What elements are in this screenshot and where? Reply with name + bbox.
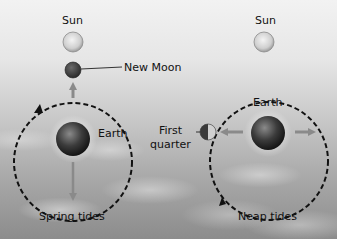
tides-diagram: Sun New Moon Earth Spring tides Sun Eart… (0, 0, 337, 239)
first-quarter-label-line1: First (159, 125, 182, 136)
earth-icon (56, 122, 90, 156)
orbit-arrow-icon (219, 197, 226, 206)
spring-tides-caption: Spring tides (39, 211, 105, 222)
neap-tides-panel (196, 32, 328, 220)
arrow-left-icon (220, 128, 228, 136)
left-earth-label: Earth (98, 128, 128, 139)
right-earth-label: Earth (253, 97, 283, 108)
earth-icon (251, 116, 285, 150)
neap-tides-caption: Neap tides (238, 211, 297, 222)
first-quarter-label-line2: quarter (150, 139, 191, 150)
left-sun-label: Sun (62, 15, 83, 26)
orbit-arrow-icon (34, 104, 43, 113)
arrow-up-icon (69, 82, 77, 90)
arrow-down-icon (69, 193, 77, 201)
new-moon-icon (65, 62, 81, 78)
right-sun-label: Sun (255, 15, 276, 26)
sun-icon (254, 32, 274, 52)
sun-icon (63, 32, 83, 52)
diagram-artwork (0, 0, 337, 239)
arrow-right-icon (308, 128, 316, 136)
new-moon-label: New Moon (124, 62, 181, 73)
